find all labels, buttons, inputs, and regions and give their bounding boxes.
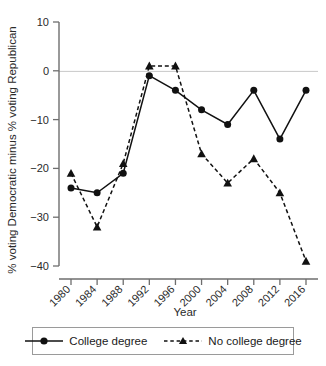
plot-area: 100−10−20−30−40 198019841988199219962000… <box>30 16 318 309</box>
y-tick-label: −40 <box>30 260 49 272</box>
series-line-no-college-degree <box>71 66 306 261</box>
data-point-marker[interactable] <box>276 136 283 143</box>
data-point-marker[interactable] <box>93 223 102 231</box>
y-tick-label: 10 <box>37 16 49 28</box>
legend-item-no-college-degree[interactable]: No college degree <box>163 334 301 348</box>
x-tick-label: 1988 <box>99 283 125 309</box>
data-point-marker[interactable] <box>198 106 205 113</box>
data-point-marker[interactable] <box>224 121 231 128</box>
data-point-marker[interactable] <box>303 87 310 94</box>
data-point-marker[interactable] <box>68 184 75 191</box>
legend-sample-solid-circle <box>24 334 64 348</box>
x-tick-label: 1980 <box>47 283 73 309</box>
x-tick-label: 2016 <box>282 283 308 309</box>
x-tick-label: 2000 <box>177 283 203 309</box>
data-point-marker[interactable] <box>67 169 76 177</box>
data-point-marker[interactable] <box>250 87 257 94</box>
data-point-marker[interactable] <box>249 154 258 162</box>
x-tick-label: 1984 <box>73 283 99 309</box>
y-tick-label: −20 <box>30 162 49 174</box>
data-point-marker[interactable] <box>197 149 206 157</box>
data-point-marker[interactable] <box>276 189 285 197</box>
legend-label-college-degree: College degree <box>69 335 147 347</box>
y-tick-label: −10 <box>30 114 49 126</box>
series-lines <box>71 66 306 261</box>
series-line-college-degree <box>71 76 306 193</box>
data-point-marker[interactable] <box>302 257 311 265</box>
data-point-marker[interactable] <box>94 189 101 196</box>
legend-sample-dashed-triangle <box>163 334 203 348</box>
data-point-marker[interactable] <box>120 170 127 177</box>
data-point-marker[interactable] <box>146 72 153 79</box>
line-chart-plot: % voting Democratic minus % voting Repub… <box>0 0 326 366</box>
y-tick-label: 0 <box>43 65 49 77</box>
x-tick-label: 2012 <box>256 283 282 309</box>
chart-figure: % voting Democratic minus % voting Repub… <box>0 0 326 366</box>
series-markers <box>67 62 311 265</box>
y-tick-label: −30 <box>30 211 49 223</box>
x-axis-ticks: 1980198419881992199620002004200820122016 <box>47 279 308 309</box>
data-point-marker[interactable] <box>172 87 179 94</box>
y-axis-title: % voting Democratic minus % voting Repub… <box>6 26 18 273</box>
x-tick-label: 2004 <box>203 283 229 309</box>
legend-label-no-college-degree: No college degree <box>208 335 301 347</box>
x-tick-label: 1996 <box>151 283 177 309</box>
chart-legend: College degree No college degree <box>32 327 294 355</box>
legend-item-college-degree[interactable]: College degree <box>24 334 147 348</box>
x-tick-label: 1992 <box>125 283 151 309</box>
x-tick-label: 2008 <box>229 283 255 309</box>
y-axis-ticks: 100−10−20−30−40 <box>30 16 59 272</box>
